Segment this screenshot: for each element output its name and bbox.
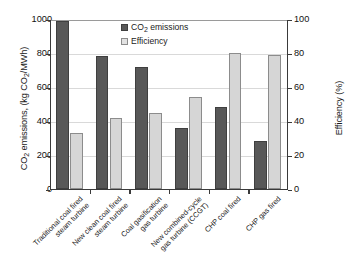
y-axis-right-tick-label: 0 [294, 184, 334, 194]
y-axis-right-tick-label: 80 [294, 48, 334, 58]
x-axis-tick-mark [129, 190, 130, 194]
bar-co2-emissions [215, 107, 228, 189]
x-axis-tick-mark [90, 190, 91, 194]
category-label-line: CHP gas fired [206, 195, 283, 272]
x-axis-tick-mark [248, 190, 249, 194]
bar-efficiency [70, 133, 83, 189]
legend-swatch-efficiency-icon [121, 38, 128, 45]
chart-figure: CO2 emissions, (kg CO2/MWh) Efficiency (… [0, 0, 346, 278]
legend-label-co2: CO2 emissions [131, 22, 188, 33]
y-axis-right-tick-mark [288, 54, 292, 55]
bar-efficiency [149, 113, 162, 190]
legend-item-efficiency: Efficiency [121, 36, 188, 46]
bar-efficiency [268, 55, 281, 189]
y-axis-right-tick-mark [288, 190, 292, 191]
chart-legend: CO2 emissions Efficiency [121, 22, 188, 49]
legend-label-efficiency: Efficiency [131, 36, 168, 46]
gridline [51, 54, 287, 55]
bar-co2-emissions [96, 56, 109, 189]
y-axis-right-tick-mark [288, 20, 292, 21]
bar-efficiency [189, 97, 202, 189]
y-axis-right-tick-mark [288, 156, 292, 157]
bar-co2-emissions [254, 141, 267, 189]
x-axis-tick-mark [169, 190, 170, 194]
y-axis-right-tick-label: 20 [294, 150, 334, 160]
y-axis-right-title: Efficiency (%) [334, 21, 344, 196]
bar-co2-emissions [135, 67, 148, 189]
bar-efficiency [110, 118, 123, 189]
gridline [51, 122, 287, 123]
gridline [51, 156, 287, 157]
bar-co2-emissions [175, 128, 188, 189]
legend-swatch-co2-icon [121, 24, 128, 31]
bar-efficiency [229, 53, 242, 189]
y-axis-left-title-sub2: 2 [23, 73, 30, 77]
gridline [51, 20, 287, 21]
x-axis-tick-mark [209, 190, 210, 194]
y-axis-right-tick-mark [288, 122, 292, 123]
y-axis-right-tick-label: 40 [294, 116, 334, 126]
y-axis-right-tick-mark [288, 88, 292, 89]
legend-item-co2: CO2 emissions [121, 22, 188, 33]
gridline [51, 88, 287, 89]
y-axis-right-tick-label: 100 [294, 14, 334, 24]
y-axis-right-tick-label: 60 [294, 82, 334, 92]
bar-co2-emissions [56, 21, 69, 189]
x-axis-category-label: CHP gas fired [206, 195, 283, 272]
